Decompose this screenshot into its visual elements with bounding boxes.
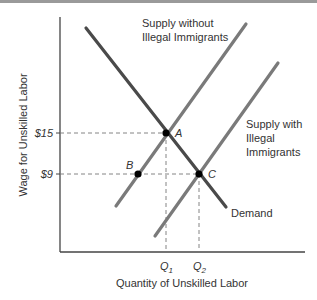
guide-lines <box>60 133 199 252</box>
supply-without-label-2: Illegal Immigrants <box>142 31 229 43</box>
x-tick-q2: Q2 <box>193 260 207 275</box>
y-tick-9: $9 <box>40 168 53 180</box>
supply-with-label-3: Immigrants <box>246 146 301 158</box>
point-a-label: A <box>174 127 182 139</box>
demand-line <box>86 28 226 207</box>
point-c <box>195 170 202 177</box>
x-axis-title: Quantity of Unskilled Labor <box>116 277 248 289</box>
demand-label: Demand <box>231 207 273 219</box>
x-tick-q1: Q1 <box>160 260 173 275</box>
point-b-label: B <box>126 159 133 171</box>
point-b <box>134 170 141 177</box>
y-axis-title: Wage for Unskilled Labor <box>17 73 29 196</box>
supply-without-label-1: Supply without <box>142 17 214 29</box>
supply-demand-chart: A B C $15 $9 Q1 Q2 Quantity of Unskilled… <box>0 0 317 300</box>
point-c-label: C <box>208 168 216 180</box>
y-tick-15: $15 <box>34 127 54 139</box>
point-a <box>162 129 169 136</box>
supply-without-line <box>116 24 246 206</box>
supply-with-label-1: Supply with <box>246 118 302 130</box>
supply-with-label-2: Illegal <box>246 132 275 144</box>
